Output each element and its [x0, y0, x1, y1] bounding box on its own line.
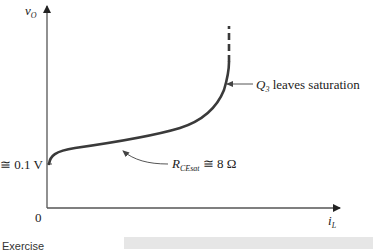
q3-prefix: Q	[256, 77, 265, 92]
bottom-gray-bar	[124, 237, 373, 249]
rce-arrow	[123, 151, 168, 164]
origin-label: 0	[35, 211, 42, 224]
q3-annotation: Q3 leaves saturation	[256, 78, 360, 94]
x-axis-label: iL	[328, 214, 336, 230]
x-axis-sub: L	[332, 221, 336, 230]
exercise-heading-fragment: Exercise	[2, 241, 44, 252]
rce-annotation: RCEsat ≅ 8 Ω	[172, 157, 236, 173]
rce-suffix: ≅ 8 Ω	[200, 156, 237, 171]
rce-sub: CEsat	[180, 164, 200, 173]
vo-curve	[49, 62, 229, 164]
y-axis-label: vO	[25, 4, 37, 20]
q3-suffix: leaves saturation	[269, 77, 359, 92]
rce-prefix: R	[172, 156, 180, 171]
tick-label-0-1v: ≅ 0.1 V	[0, 158, 43, 171]
y-axis-sub: O	[31, 11, 37, 20]
